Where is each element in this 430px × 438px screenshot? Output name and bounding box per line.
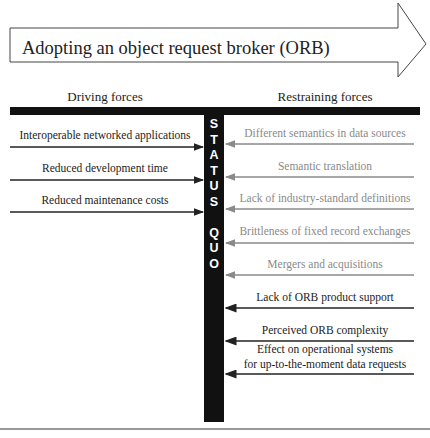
restraining-force-label: Different semantics in data sources xyxy=(228,126,422,140)
restraining-force-label: Mergers and acquisitions xyxy=(228,257,422,271)
restraining-force-label: Perceived ORB complexity xyxy=(228,323,422,337)
force-arrows xyxy=(0,0,430,438)
restraining-force-label-line2: for up-to-the-moment data requests xyxy=(228,357,422,371)
restraining-force-label: Brittleness of fixed record exchanges xyxy=(228,224,422,238)
bottom-divider xyxy=(0,428,430,430)
restraining-force-label: Lack of ORB product support xyxy=(228,290,422,304)
restraining-force-label: Semantic translation xyxy=(228,159,422,173)
driving-force-label: Reduced maintenance costs xyxy=(10,193,200,207)
restraining-force-label: Lack of industry-standard definitions xyxy=(228,191,422,205)
driving-force-label: Interoperable networked applications xyxy=(10,128,200,142)
restraining-force-label: Effect on operational systems xyxy=(228,342,422,356)
driving-force-label: Reduced development time xyxy=(10,161,200,175)
